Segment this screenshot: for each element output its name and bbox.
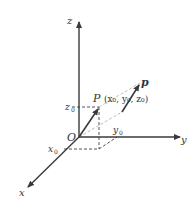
svg-text:0: 0	[71, 106, 75, 113]
y-axis-label: y	[180, 134, 187, 145]
y0-label: y 0	[112, 125, 123, 136]
point-coords: (x₀, y₀, z₀)	[104, 94, 148, 104]
translation-guides	[79, 83, 140, 137]
svg-text:x: x	[48, 144, 53, 154]
x-axis-label: x	[19, 187, 25, 198]
svg-text:y: y	[112, 125, 119, 135]
svg-text:0: 0	[119, 129, 123, 136]
z-axis-label: z	[66, 15, 73, 26]
point-label: P	[92, 92, 101, 105]
x-axis	[28, 137, 79, 187]
op-vector	[79, 109, 98, 137]
origin-label: O	[67, 131, 76, 144]
x0-label: x 0	[48, 144, 58, 155]
vector-p-label: p	[141, 76, 149, 89]
coordinate-diagram: z y x O P (x₀, y₀, z₀) p z 0 x 0 y 0	[0, 0, 195, 207]
z0-label: z 0	[64, 102, 75, 113]
svg-text:z: z	[64, 102, 70, 112]
svg-text:0: 0	[54, 148, 58, 155]
